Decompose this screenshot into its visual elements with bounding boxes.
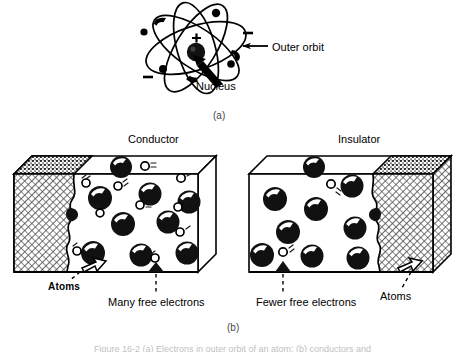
outer-orbit-label: Outer orbit — [272, 41, 324, 53]
insulator-atoms-label: Atoms — [380, 290, 411, 302]
insulator-title: Insulator — [338, 133, 380, 145]
conductor-electrons-label: Many free electrons — [108, 296, 205, 308]
conductor-atoms-label: Atoms — [48, 281, 80, 292]
nucleus-label: Nucleus — [196, 80, 236, 92]
conductor-title: Conductor — [128, 133, 179, 145]
insulator-electrons-label: Fewer free electrons — [256, 296, 356, 308]
figure-atoms-conductor-insulator: Outer orbit Nucleus (a) Conductor Insula… — [0, 0, 465, 352]
conductor-leader-lines — [69, 272, 156, 295]
panel-b-tag: (b) — [227, 322, 239, 333]
figure-caption: Figure 16-2 (a) Electrons in outer orbit… — [0, 344, 465, 352]
panel-a-tag: (a) — [213, 110, 225, 121]
